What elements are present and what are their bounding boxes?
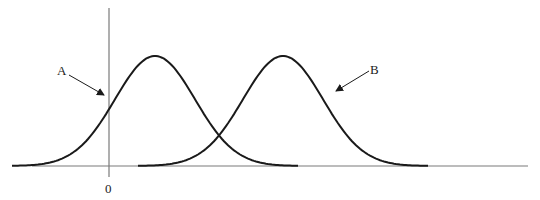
arrow-b [336, 71, 369, 91]
curve-b [138, 56, 428, 166]
distribution-diagram: A B 0 [0, 0, 540, 200]
origin-label: 0 [105, 181, 112, 196]
label-a: A [57, 63, 67, 78]
arrow-a [69, 75, 104, 95]
label-b: B [370, 62, 379, 77]
curve-a [12, 56, 298, 166]
